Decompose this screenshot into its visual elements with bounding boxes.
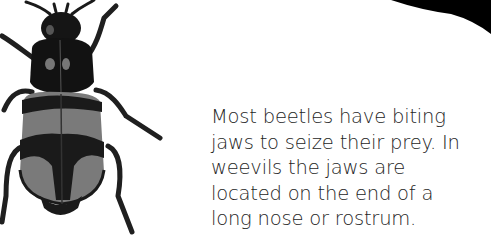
caption-line: jaws to seize their prey. In: [211, 130, 491, 156]
caption-line: weevils the jaws are: [211, 155, 491, 181]
beetle-illustration: [0, 0, 200, 246]
caption-line: long nose or rostrum.: [211, 206, 491, 232]
caption-line: Most beetles have biting: [211, 104, 491, 130]
caption-line: located on the end of a: [211, 181, 491, 207]
caption-text: Most beetles have biting jaws to seize t…: [211, 104, 491, 232]
corner-decoration: [361, 0, 491, 70]
